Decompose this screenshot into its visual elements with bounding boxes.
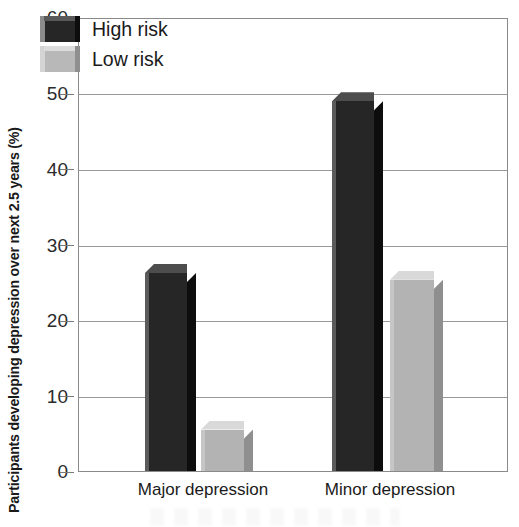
legend-item-high-risk: High risk bbox=[40, 16, 168, 42]
bar-side-face bbox=[374, 101, 383, 471]
bar-major-high-risk bbox=[145, 273, 187, 471]
bar-left-highlight bbox=[145, 273, 149, 471]
bar-minor-low-risk bbox=[390, 280, 434, 471]
bar-front-face bbox=[332, 101, 374, 471]
y-tick-mark-0 bbox=[60, 472, 74, 473]
chart-legend: High risk Low risk bbox=[40, 16, 168, 72]
legend-swatch-high-risk bbox=[40, 16, 80, 42]
gridline-40 bbox=[79, 170, 507, 171]
plot-area bbox=[78, 18, 508, 472]
bar-top-face bbox=[390, 271, 434, 280]
bar-front-face bbox=[201, 430, 244, 471]
bar-top-face bbox=[145, 264, 187, 273]
page-bleedthrough-artifact bbox=[150, 508, 400, 526]
bar-major-low-risk bbox=[201, 430, 244, 471]
gridline-30 bbox=[79, 246, 507, 247]
bar-side-face bbox=[187, 273, 196, 471]
gridline-50 bbox=[79, 94, 507, 95]
legend-label-low-risk: Low risk bbox=[92, 49, 164, 69]
y-tick-mark-20 bbox=[60, 321, 74, 322]
bar-chart-figure: Participants developing depression over … bbox=[0, 0, 519, 527]
bar-left-highlight bbox=[332, 101, 336, 471]
swatch-side-face bbox=[75, 46, 80, 72]
bar-side-face bbox=[244, 430, 253, 471]
legend-item-low-risk: Low risk bbox=[40, 46, 168, 72]
x-category-label-major-depression: Major depression bbox=[118, 480, 288, 500]
y-tick-mark-40 bbox=[60, 169, 74, 170]
y-tick-mark-50 bbox=[60, 94, 74, 95]
bar-top-face bbox=[201, 421, 244, 430]
bar-left-highlight bbox=[201, 430, 205, 471]
x-category-label-minor-depression: Minor depression bbox=[305, 480, 475, 500]
bar-front-face bbox=[390, 280, 434, 471]
bar-left-highlight bbox=[390, 280, 394, 471]
bar-side-face bbox=[434, 280, 443, 471]
y-axis-title: Participants developing depression over … bbox=[0, 0, 28, 527]
bar-minor-high-risk bbox=[332, 101, 374, 471]
swatch-side-face bbox=[75, 16, 80, 42]
bar-front-face bbox=[145, 273, 187, 471]
y-tick-mark-30 bbox=[60, 245, 74, 246]
legend-label-high-risk: High risk bbox=[92, 19, 168, 39]
y-tick-mark-10 bbox=[60, 396, 74, 397]
legend-swatch-low-risk bbox=[40, 46, 80, 72]
